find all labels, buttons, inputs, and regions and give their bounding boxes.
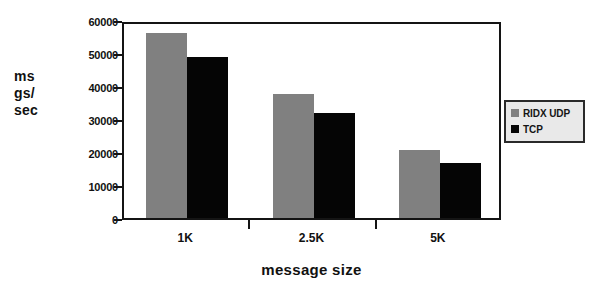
chart-legend: RIDX UDPTCP xyxy=(504,100,585,143)
y-axis-title-line-3: sec xyxy=(14,102,62,119)
bar-2-5K-ridx-udp xyxy=(273,94,314,218)
x-axis-tick-label: 5K xyxy=(430,231,445,245)
y-axis-tick-label: 50000 xyxy=(64,49,118,61)
y-axis-tick-mark xyxy=(114,153,122,155)
legend-item[interactable]: RIDX UDP xyxy=(511,106,579,120)
legend-label: TCP xyxy=(523,124,543,135)
legend-label: RIDX UDP xyxy=(523,108,570,119)
y-axis-tick-mark xyxy=(114,54,122,56)
y-axis-tick-mark xyxy=(114,219,122,221)
x-axis-tick-marks xyxy=(122,220,501,230)
legend-swatch-icon xyxy=(511,109,519,117)
y-axis-tick-label: 20000 xyxy=(64,148,118,160)
y-axis-tick-mark xyxy=(114,120,122,122)
y-axis-tick-label: 40000 xyxy=(64,82,118,94)
bar-5K-ridx-udp xyxy=(399,150,440,218)
x-axis-title: message size xyxy=(122,261,501,278)
x-axis-tick-labels: 1K2.5K5K xyxy=(122,231,501,249)
y-axis-title: ms gs/ sec xyxy=(14,68,62,119)
x-axis-tick-mark xyxy=(375,220,377,229)
legend-item[interactable]: TCP xyxy=(511,122,579,136)
y-axis-title-line-2: gs/ xyxy=(14,85,62,102)
y-axis-title-line-1: ms xyxy=(14,68,62,85)
x-axis-tick-mark xyxy=(248,220,250,229)
plot-area xyxy=(122,22,501,220)
bar-1K-tcp xyxy=(187,57,228,218)
bar-2-5K-tcp xyxy=(314,113,355,218)
y-axis-tick-label: 10000 xyxy=(64,181,118,193)
y-axis-tick-marks xyxy=(114,22,122,220)
bar-1K-ridx-udp xyxy=(146,33,187,218)
y-axis-tick-label: 30000 xyxy=(64,115,118,127)
bars-layer xyxy=(124,24,499,218)
y-axis-tick-labels: 0100002000030000400005000060000 xyxy=(58,22,118,220)
y-axis-tick-mark xyxy=(114,186,122,188)
bar-5K-tcp xyxy=(440,163,481,218)
y-axis-tick-mark xyxy=(114,87,122,89)
x-axis-tick-label: 2.5K xyxy=(299,231,324,245)
x-axis-tick-label: 1K xyxy=(177,231,192,245)
y-axis-tick-label: 0 xyxy=(64,214,118,226)
legend-swatch-icon xyxy=(511,125,519,133)
chart-screenshot: ms gs/ sec 01000020000300004000050000600… xyxy=(0,0,593,293)
y-axis-tick-label: 60000 xyxy=(64,16,118,28)
y-axis-tick-mark xyxy=(114,21,122,23)
